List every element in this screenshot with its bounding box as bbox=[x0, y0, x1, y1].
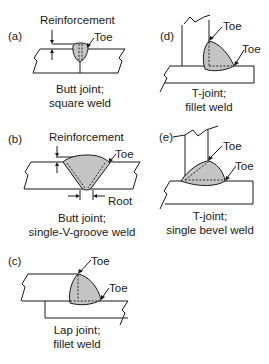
panel-e-label: (e) bbox=[159, 131, 173, 143]
panel-a-caption-line1: Butt joint; bbox=[56, 83, 104, 95]
panel-e-toe-label-2: Toe bbox=[235, 160, 254, 172]
panel-c-toe-label-1: Toe bbox=[91, 255, 110, 267]
panel-d: (d) Toe Toe T-joint; fillet weld bbox=[160, 15, 261, 113]
panel-c-weld-bead bbox=[69, 274, 101, 305]
panel-e-weld-bead bbox=[181, 161, 225, 186]
panel-a-toe-label: Toe bbox=[94, 31, 113, 43]
panel-b-root-indicator bbox=[68, 190, 105, 200]
panel-b-label: (b) bbox=[8, 133, 22, 145]
panel-d-caption-line1: T-joint; bbox=[192, 87, 227, 99]
panel-d-label: (d) bbox=[160, 30, 174, 42]
panel-b: (b) Reinforcement Toe Root bbox=[8, 131, 140, 238]
panel-d-caption-line2: fillet weld bbox=[185, 101, 232, 113]
panel-d-toe-label-1: Toe bbox=[223, 20, 242, 32]
panel-b-weld-bead bbox=[63, 155, 110, 190]
panel-a-caption-line2: square weld bbox=[49, 97, 111, 109]
panel-e-caption-line2: single bevel weld bbox=[166, 224, 254, 236]
panel-c-caption-line1: Lap joint; bbox=[54, 324, 101, 336]
panel-a-label: (a) bbox=[8, 30, 22, 42]
panel-b-caption-line1: Butt joint; bbox=[58, 212, 106, 224]
panel-a-weld-bead bbox=[73, 43, 88, 62]
panel-b-root-label: Root bbox=[108, 195, 133, 207]
panel-e: (e) Toe Toe T-joint; single bevel weld bbox=[159, 126, 254, 236]
panel-b-toe-label: Toe bbox=[115, 148, 134, 160]
panel-c-toe-label-2: Toe bbox=[109, 282, 128, 294]
panel-a-reinforcement-label: Reinforcement bbox=[40, 14, 116, 26]
panel-d-weld-bead bbox=[203, 41, 234, 71]
panel-e-caption-line1: T-joint; bbox=[193, 210, 228, 222]
panel-c-label: (c) bbox=[8, 255, 22, 267]
panel-c-caption-line2: fillet weld bbox=[53, 338, 100, 350]
weld-joint-diagram: (a) Reinforcement Toe Butt bbox=[0, 0, 269, 364]
panel-b-caption-line2: single-V-groove weld bbox=[29, 226, 136, 238]
panel-e-toe-label-1: Toe bbox=[223, 140, 242, 152]
panel-a: (a) Reinforcement Toe Butt bbox=[8, 14, 125, 109]
panel-c: (c) Toe Toe Lap joint; fillet weld bbox=[8, 255, 128, 350]
panel-d-toe-label-2: Toe bbox=[242, 43, 261, 55]
panel-b-reinforcement-label: Reinforcement bbox=[49, 131, 125, 143]
